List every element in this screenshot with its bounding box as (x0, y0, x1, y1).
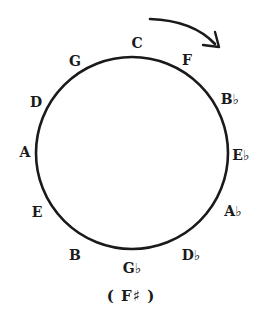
key-label: D (30, 95, 42, 109)
clockwise-arrow-icon (150, 19, 219, 47)
key-label: B (69, 248, 81, 262)
key-label: C (131, 36, 142, 50)
key-label: G♭ (123, 261, 142, 275)
key-label: B♭ (221, 92, 239, 106)
key-label: E♭ (232, 148, 249, 162)
key-label: A♭ (224, 204, 241, 218)
key-label: G (69, 54, 81, 68)
key-circle (36, 57, 228, 249)
key-label: F (182, 53, 192, 67)
key-label: D♭ (182, 248, 201, 262)
key-label: E (32, 205, 43, 219)
circle-of-fifths-diagram: CFB♭E♭A♭D♭G♭BEADG ( F♯ ) (0, 0, 263, 320)
enharmonic-label: ( F♯ ) (107, 289, 156, 304)
key-label: A (20, 145, 31, 159)
